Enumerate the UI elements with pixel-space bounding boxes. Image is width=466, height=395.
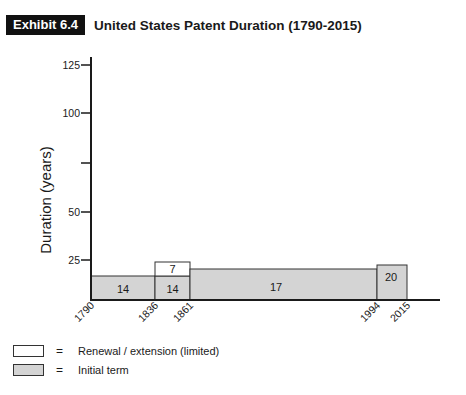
bar-label-1790: 14 [117, 283, 129, 295]
bar-label-1836-renewal: 7 [169, 263, 175, 275]
x-tick-2015: 2015 [387, 299, 412, 324]
legend-item-initial: = Initial term [13, 360, 219, 379]
equals-sign: = [56, 344, 76, 358]
x-tick-1790: 1790 [71, 299, 96, 324]
chart-legend: = Renewal / extension (limited) = Initia… [13, 341, 219, 379]
y-tick-25: 25 [68, 254, 80, 266]
bar-label-1861: 17 [270, 281, 282, 293]
y-tick-labels: 125 100 50 25 [62, 59, 80, 266]
legend-label-renewal: Renewal / extension (limited) [78, 345, 219, 357]
renewal-swatch [13, 345, 44, 357]
equals-sign: = [56, 363, 76, 377]
y-ticks [81, 65, 91, 260]
y-tick-50: 50 [68, 206, 80, 218]
x-tick-1994: 1994 [357, 299, 382, 324]
y-tick-100: 100 [62, 107, 80, 119]
x-tick-labels: 1790 1836 1861 1994 2015 [71, 299, 412, 324]
bar-1861-initial [190, 269, 377, 300]
legend-item-renewal: = Renewal / extension (limited) [13, 341, 219, 360]
y-tick-125: 125 [62, 59, 80, 71]
x-tick-1836: 1836 [135, 299, 160, 324]
patent-duration-chart: Duration (years) 14 14 7 17 20 125 100 5… [0, 0, 466, 395]
bar-label-1994: 20 [385, 271, 397, 283]
bar-label-1836-initial: 14 [166, 283, 178, 295]
x-tick-1861: 1861 [170, 299, 195, 324]
legend-label-initial: Initial term [78, 364, 129, 376]
initial-term-swatch [13, 364, 44, 376]
y-axis-label: Duration (years) [37, 146, 54, 254]
